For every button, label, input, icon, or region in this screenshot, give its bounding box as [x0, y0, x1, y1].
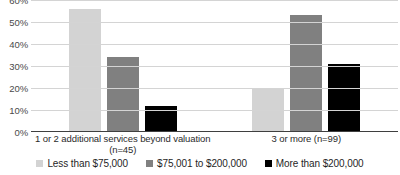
- legend-item[interactable]: Less than $75,000: [36, 158, 128, 169]
- gridline: [31, 0, 398, 1]
- category-label-line: (n=45): [31, 144, 215, 155]
- legend-item[interactable]: More than $200,000: [265, 158, 364, 169]
- bar[interactable]: [328, 64, 360, 132]
- y-axis-tick-label: 60%: [9, 0, 28, 6]
- y-axis-tick-label: 40%: [9, 39, 28, 50]
- gridline: [31, 44, 398, 45]
- legend-swatch-icon: [146, 160, 153, 167]
- y-axis-tick-label: 0%: [14, 127, 28, 138]
- bar[interactable]: [290, 15, 322, 132]
- legend-item[interactable]: $75,001 to $200,000: [146, 158, 247, 169]
- legend-swatch-icon: [265, 160, 272, 167]
- category-label: 3 or more (n=99): [215, 133, 399, 155]
- plot-area: 60%50%40%30%20%10%0%: [0, 0, 400, 132]
- bar[interactable]: [107, 57, 139, 132]
- legend-label: $75,001 to $200,000: [157, 158, 247, 169]
- gridline: [31, 22, 398, 23]
- gridline: [31, 66, 398, 67]
- legend-swatch-icon: [36, 160, 43, 167]
- category-label-line: 1 or 2 additional services beyond valuat…: [31, 133, 215, 144]
- bar[interactable]: [69, 9, 101, 132]
- y-axis-tick-label: 50%: [9, 17, 28, 28]
- chart-legend: Less than $75,000$75,001 to $200,000More…: [0, 158, 400, 169]
- y-axis-tick-label: 30%: [9, 61, 28, 72]
- category-label: 1 or 2 additional services beyond valuat…: [31, 133, 215, 155]
- legend-label: More than $200,000: [276, 158, 364, 169]
- category-label-line: 3 or more (n=99): [215, 133, 399, 144]
- x-axis-line: [31, 131, 398, 133]
- grouped-bar-chart: 60%50%40%30%20%10%0% 1 or 2 additional s…: [0, 0, 400, 175]
- grid-area: [31, 0, 398, 132]
- gridline: [31, 110, 398, 111]
- legend-label: Less than $75,000: [47, 158, 128, 169]
- y-axis-tick-label: 10%: [9, 105, 28, 116]
- y-axis-tick-label: 20%: [9, 83, 28, 94]
- gridline: [31, 88, 398, 89]
- y-axis: 60%50%40%30%20%10%0%: [0, 0, 30, 132]
- category-labels: 1 or 2 additional services beyond valuat…: [31, 133, 398, 155]
